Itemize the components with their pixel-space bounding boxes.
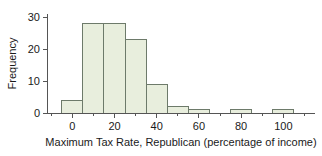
- y-axis-tick-label: 10: [28, 75, 40, 87]
- x-axis-tick-label: 20: [108, 120, 120, 132]
- histogram-plot: 0102030020406080100Maximum Tax Rate, Rep…: [0, 0, 322, 156]
- x-axis-tick-label: 80: [235, 120, 247, 132]
- x-axis-tick-label: 60: [193, 120, 205, 132]
- y-axis-title: Frequency: [6, 37, 18, 89]
- y-axis-tick-label: 20: [28, 43, 40, 55]
- histogram-bar: [125, 40, 146, 113]
- histogram-bar: [62, 100, 83, 113]
- x-axis-tick-label: 0: [69, 120, 75, 132]
- histogram-bar: [146, 84, 167, 113]
- histogram-bar: [167, 107, 188, 113]
- y-axis-tick-label: 30: [28, 11, 40, 23]
- x-axis-tick-label: 40: [151, 120, 163, 132]
- x-axis-tick-label: 100: [274, 120, 292, 132]
- histogram-bar: [104, 24, 125, 113]
- histogram-figure: 0102030020406080100Maximum Tax Rate, Rep…: [0, 0, 322, 156]
- histogram-bar: [83, 24, 104, 113]
- y-axis-tick-label: 0: [34, 107, 40, 119]
- x-axis-title: Maximum Tax Rate, Republican (percentage…: [45, 136, 316, 148]
